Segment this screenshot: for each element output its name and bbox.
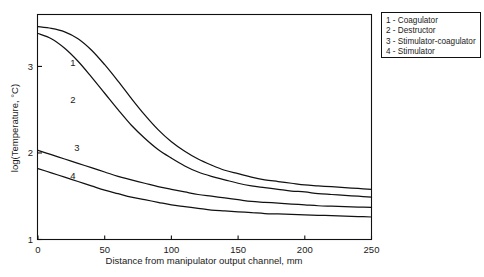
curve-label-2: 2 [70, 94, 75, 105]
curve-label-1: 1 [70, 57, 75, 68]
x-tick-label: 250 [364, 244, 380, 255]
legend-item: 4 - Stimulator [386, 47, 480, 57]
x-axis-ticks [38, 236, 372, 240]
legend-item: 2 - Destructor [386, 26, 480, 36]
data-curves [38, 27, 372, 217]
chart-legend: 1 - Coagulator 2 - Destructor 3 - Stimul… [381, 12, 481, 58]
curve-4 [38, 169, 372, 217]
x-axis-title: Distance from manipulator output channel… [106, 255, 303, 266]
curve-1 [38, 27, 372, 190]
curve-label-4: 4 [70, 170, 75, 181]
x-tick-label: 150 [230, 244, 246, 255]
y-axis-title: log(Temperature, °C) [9, 84, 20, 172]
x-tick-label: 50 [99, 244, 110, 255]
legend-item: 1 - Coagulator [386, 16, 480, 26]
y-tick-label: 1 [28, 234, 33, 245]
chart-figure: 050100150200250 123 1234 Distance from m… [0, 0, 484, 277]
curve-3 [38, 150, 372, 207]
y-tick-label: 3 [28, 61, 33, 72]
x-tick-label: 200 [297, 244, 313, 255]
legend-item: 3 - Stimulator-coagulator [386, 37, 480, 47]
curve-label-3: 3 [74, 142, 79, 153]
y-axis-tick-labels: 123 [28, 61, 33, 245]
y-tick-label: 2 [28, 147, 33, 158]
y-axis-ticks [38, 66, 42, 239]
x-tick-label: 100 [163, 244, 179, 255]
curve-2 [38, 34, 372, 198]
x-tick-label: 0 [35, 244, 40, 255]
x-axis-tick-labels: 050100150200250 [35, 244, 379, 255]
